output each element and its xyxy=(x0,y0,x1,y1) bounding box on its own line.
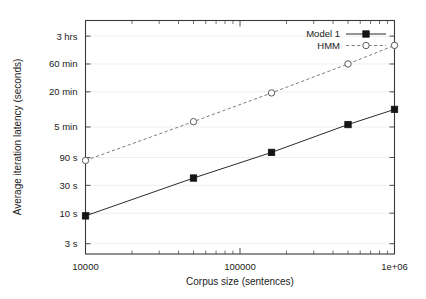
y-axis-title: Average iteration latency (seconds) xyxy=(12,59,23,216)
x-axis-title: Corpus size (sentences) xyxy=(186,276,294,287)
data-point-marker xyxy=(268,149,274,155)
y-tick-label: 3 hrs xyxy=(56,31,77,42)
y-tick-label: 30 s xyxy=(60,180,78,191)
plot-frame xyxy=(86,21,395,255)
data-point-marker xyxy=(345,121,351,127)
x-axis-tick-labels: 100001000001e+06 xyxy=(72,261,408,272)
legend-marker-2 xyxy=(363,42,369,48)
data-series-layer xyxy=(82,42,397,219)
data-point-marker xyxy=(190,118,196,124)
data-point-marker xyxy=(391,106,397,112)
data-point-marker xyxy=(82,213,88,219)
data-point-marker xyxy=(190,175,196,181)
y-tick-label: 90 s xyxy=(60,152,78,163)
data-point-marker xyxy=(345,61,351,67)
legend-marker-1 xyxy=(363,31,369,37)
y-tick-label: 20 min xyxy=(49,86,78,97)
x-tick-label: 100000 xyxy=(224,261,256,272)
latency-vs-corpus-size-chart: 100001000001e+06 3 s10 s30 s90 s5 min20 … xyxy=(0,0,426,299)
x-tick-label: 10000 xyxy=(72,261,98,272)
y-tick-label: 5 min xyxy=(54,121,77,132)
y-tick-label: 3 s xyxy=(65,238,78,249)
x-axis-ticks xyxy=(86,21,395,255)
chart-legend: Model 1HMM xyxy=(306,28,386,51)
x-tick-label: 1e+06 xyxy=(381,261,408,272)
y-tick-label: 60 min xyxy=(49,58,78,69)
y-tick-label: 10 s xyxy=(60,208,78,219)
legend-label-1: Model 1 xyxy=(306,28,340,39)
data-point-marker xyxy=(391,42,397,48)
legend-label-2: HMM xyxy=(317,40,340,51)
chart-container: 100001000001e+06 3 s10 s30 s90 s5 min20 … xyxy=(0,0,426,299)
data-point-marker xyxy=(268,90,274,96)
y-axis-tick-labels: 3 s10 s30 s90 s5 min20 min60 min3 hrs xyxy=(49,31,78,250)
data-point-marker xyxy=(82,157,88,163)
